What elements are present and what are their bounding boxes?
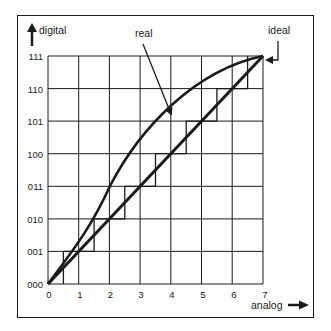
x-tick-labels: 0 1 2 3 4 5 6 7	[46, 289, 267, 300]
real-annotation-arrow-icon	[143, 44, 171, 114]
svg-text:110: 110	[28, 84, 43, 95]
ideal-line	[48, 56, 263, 284]
svg-text:5: 5	[200, 289, 205, 300]
svg-text:010: 010	[27, 214, 43, 225]
y-tick-labels: 000 001 010 011 100 101 110 111	[27, 51, 43, 290]
svg-text:011: 011	[28, 181, 43, 192]
x-axis-label: analog	[251, 299, 283, 311]
ideal-annotation-arrow-icon	[267, 41, 278, 60]
svg-text:111: 111	[29, 51, 43, 62]
svg-text:101: 101	[27, 116, 43, 127]
svg-text:6: 6	[231, 289, 236, 300]
svg-text:000: 000	[27, 279, 43, 290]
svg-text:4: 4	[169, 289, 174, 300]
real-annotation-label: real	[135, 27, 153, 39]
digital-axis-arrow-icon	[27, 23, 37, 46]
svg-text:2: 2	[108, 289, 113, 300]
svg-text:001: 001	[27, 246, 43, 257]
analog-axis-arrow-icon	[288, 301, 309, 310]
ideal-annotation-label: ideal	[268, 24, 290, 36]
svg-text:1: 1	[77, 289, 82, 300]
transfer-diagram: digital 000 001 010 011 100 101 110 111 …	[0, 0, 331, 331]
svg-text:100: 100	[27, 149, 43, 160]
svg-text:3: 3	[138, 289, 143, 300]
y-axis-label: digital	[39, 24, 66, 36]
svg-text:0: 0	[46, 289, 51, 300]
